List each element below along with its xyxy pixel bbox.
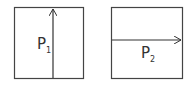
panel-1-label: P1 xyxy=(37,37,51,55)
label-text: P xyxy=(37,35,46,53)
label-subscript: 2 xyxy=(150,55,155,64)
label-text: P xyxy=(141,44,150,62)
panel-2-label: P2 xyxy=(141,46,155,64)
diagram-canvas xyxy=(0,0,192,85)
label-subscript: 1 xyxy=(46,46,51,55)
panel-2-box xyxy=(112,8,183,79)
